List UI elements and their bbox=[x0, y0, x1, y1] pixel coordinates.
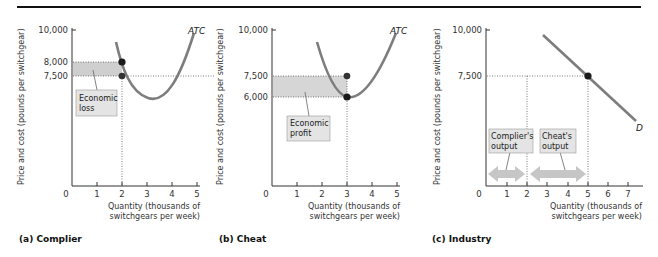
x-axis-label: Quantity (thousands of bbox=[108, 202, 200, 211]
box-text: Cheat's bbox=[542, 132, 572, 141]
y-axis-label: Price and cost (pounds per switchgear) bbox=[17, 29, 26, 186]
y-tick-label: 6,000 bbox=[244, 92, 268, 102]
y-axis-label: Price and cost (pounds per switchgear) bbox=[216, 29, 225, 186]
x-tick-label: 4 bbox=[169, 189, 174, 199]
panel-caption: (c) Industry bbox=[432, 234, 491, 244]
x-axis-label: switchgears per week) bbox=[310, 212, 400, 221]
y-tick-label: 10,000 bbox=[452, 25, 482, 35]
point-atc-6000 bbox=[343, 93, 350, 100]
panel-caption: (a) Complier bbox=[19, 234, 82, 244]
x-tick-label: 3 bbox=[544, 189, 549, 199]
x-tick-label: 0 bbox=[263, 189, 268, 199]
x-tick-label: 1 bbox=[294, 189, 299, 199]
point-atc-8000 bbox=[118, 58, 125, 65]
x-tick-label: 2 bbox=[119, 189, 124, 199]
box-text: loss bbox=[79, 104, 94, 113]
x-tick-label: 1 bbox=[94, 189, 99, 199]
y-tick-label: 10,000 bbox=[238, 25, 268, 35]
box-text: Economic bbox=[79, 94, 118, 103]
x-tick-label: 6 bbox=[605, 189, 610, 199]
x-tick-label: 7 bbox=[625, 189, 630, 199]
x-axis-label: Quantity (thousands of bbox=[308, 202, 400, 211]
atc-curve bbox=[116, 33, 194, 99]
box-text: Economic bbox=[290, 119, 329, 128]
panel-cheat: Price and cost (pounds per switchgear) 1… bbox=[216, 25, 408, 244]
point-equilibrium bbox=[584, 72, 591, 79]
cheat-output-arrow bbox=[530, 166, 586, 182]
x-tick-label: 5 bbox=[194, 189, 199, 199]
x-axis-label: Quantity (thousands of bbox=[550, 202, 642, 211]
x-tick-label: 4 bbox=[369, 189, 374, 199]
x-tick-label: 2 bbox=[319, 189, 324, 199]
figure: Price and cost (pounds per switchgear) 1… bbox=[0, 0, 658, 257]
box-text: output bbox=[491, 142, 517, 151]
x-tick-label: 2 bbox=[524, 189, 529, 199]
y-tick-label: 7,500 bbox=[44, 71, 68, 81]
atc-label: ATC bbox=[389, 26, 408, 36]
atc-label: ATC bbox=[187, 26, 206, 36]
label-leader bbox=[506, 152, 510, 170]
y-tick-label: 7,500 bbox=[458, 71, 482, 81]
label-leader bbox=[560, 152, 565, 170]
panel-caption: (b) Cheat bbox=[219, 234, 267, 244]
top-rule bbox=[17, 6, 641, 8]
demand-label: D bbox=[636, 123, 643, 133]
y-tick-label: 7,500 bbox=[244, 71, 268, 81]
x-tick-label: 3 bbox=[344, 189, 349, 199]
y-tick-label: 8,000 bbox=[44, 57, 68, 67]
y-tick-label: 10,000 bbox=[38, 25, 68, 35]
x-tick-label: 1 bbox=[504, 189, 509, 199]
x-axis-label: switchgears per week) bbox=[110, 212, 200, 221]
box-text: output bbox=[542, 142, 568, 151]
point-price-7500 bbox=[119, 73, 126, 80]
x-tick-label: 5 bbox=[585, 189, 590, 199]
panel-industry: Price and cost (pounds per switchgear) 1… bbox=[432, 25, 643, 244]
box-text: profit bbox=[290, 129, 311, 138]
x-tick-label: 3 bbox=[144, 189, 149, 199]
x-axis-label: switchgears per week) bbox=[552, 212, 642, 221]
point-price-7500 bbox=[344, 73, 351, 80]
box-text: Complier's bbox=[491, 132, 533, 141]
economic-loss-area bbox=[73, 62, 122, 76]
panel-complier: Price and cost (pounds per switchgear) 1… bbox=[17, 25, 215, 244]
x-tick-label: 4 bbox=[565, 189, 570, 199]
x-tick-label: 0 bbox=[63, 189, 68, 199]
x-tick-label: 5 bbox=[394, 189, 399, 199]
y-axis-label: Price and cost (pounds per switchgear) bbox=[433, 29, 442, 186]
x-tick-label: 0 bbox=[476, 189, 481, 199]
